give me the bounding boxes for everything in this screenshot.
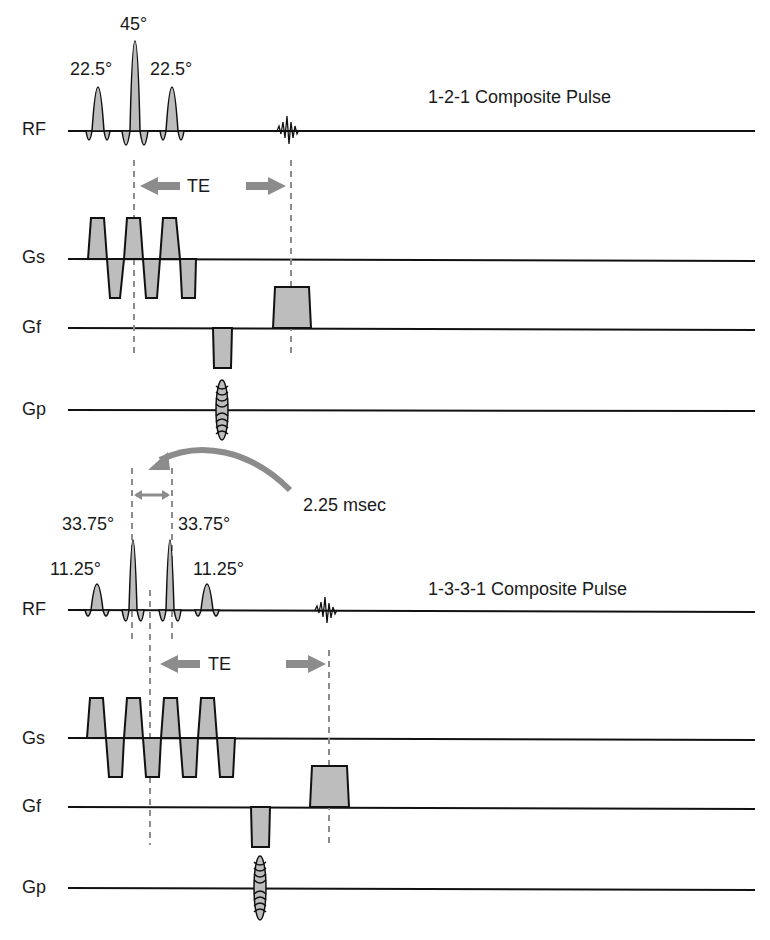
flip-angle-label: 11.25° (193, 560, 244, 578)
axis-label-gs-bottom: Gs (22, 729, 45, 747)
axis-label-gp-bottom: Gp (22, 878, 46, 896)
rf-pulses-bottom (85, 540, 219, 621)
phase-encode-top (216, 380, 228, 440)
pulse-sequence-diagram (0, 0, 770, 940)
gp-axis-top (68, 410, 755, 411)
axis-label-gs-top: Gs (22, 248, 45, 266)
axis-label-gp-top: Gp (22, 400, 46, 418)
flip-angle-label: 33.75° (62, 515, 114, 533)
axis-label-rf-bottom: RF (22, 600, 46, 618)
interval-label: 2.25 msec (303, 496, 386, 514)
flip-angle-label: 22.5° (150, 60, 192, 78)
flip-angle-label: 33.75° (178, 515, 230, 533)
gf-axis-bottom (68, 807, 755, 809)
gp-axis-bottom (68, 888, 755, 890)
echo-signal-top (277, 116, 299, 144)
diagram-title-top: 1-2-1 Composite Pulse (428, 88, 611, 106)
flip-angle-label: 45° (120, 15, 147, 33)
echo-signal-bottom (315, 597, 337, 623)
axis-label-gf-top: Gf (22, 318, 41, 336)
flip-angle-label: 22.5° (70, 60, 112, 78)
axis-label-rf-top: RF (22, 120, 46, 138)
axis-label-gf-bottom: Gf (22, 797, 41, 815)
diagram-title-bottom: 1-3-3-1 Composite Pulse (428, 580, 627, 598)
te-label-top: TE (187, 177, 210, 195)
gf-axis-top (68, 328, 755, 330)
phase-encode-bottom (254, 856, 266, 920)
te-label-bottom: TE (208, 655, 231, 673)
flip-angle-label: 11.25° (50, 560, 101, 578)
rf-pulses-top (86, 41, 184, 145)
